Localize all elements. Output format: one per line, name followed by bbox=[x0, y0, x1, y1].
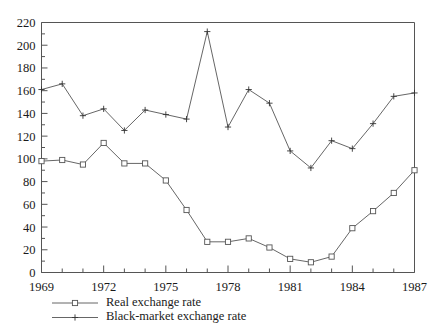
x-tick-label: 1969 bbox=[29, 280, 54, 294]
y-tick-label: 40 bbox=[23, 221, 36, 235]
data-point-black-market-1987 bbox=[411, 90, 417, 96]
y-tick-label: 220 bbox=[17, 16, 36, 30]
data-point-real-1985 bbox=[370, 209, 375, 214]
legend-marker-square bbox=[72, 300, 77, 305]
data-point-black-market-1979 bbox=[246, 86, 252, 92]
exchange-rate-chart: 0204060801001201401601802002201969197219… bbox=[0, 0, 435, 331]
x-tick-label: 1978 bbox=[216, 280, 241, 294]
y-tick-label: 120 bbox=[17, 130, 36, 144]
x-tick-label: 1972 bbox=[91, 280, 116, 294]
chart-canvas: 0204060801001201401601802002201969197219… bbox=[0, 0, 435, 331]
data-point-black-market-1978 bbox=[225, 124, 231, 130]
data-point-black-market-1970 bbox=[59, 81, 65, 87]
y-tick-label: 200 bbox=[17, 39, 36, 53]
x-tick-label: 1984 bbox=[340, 280, 366, 294]
data-point-black-market-1980 bbox=[266, 100, 272, 106]
legend-marker-plus bbox=[72, 314, 78, 320]
plot-frame bbox=[42, 23, 415, 273]
y-tick-label: 0 bbox=[29, 266, 35, 280]
x-tick-label: 1981 bbox=[278, 280, 303, 294]
data-point-real-1976 bbox=[184, 207, 189, 212]
x-tick-label: 1987 bbox=[402, 280, 427, 294]
legend-label-1: Black-market exchange rate bbox=[106, 309, 247, 323]
y-tick-label: 20 bbox=[23, 243, 36, 257]
data-point-real-1980 bbox=[267, 245, 272, 250]
y-tick-label: 160 bbox=[17, 84, 36, 98]
data-point-real-1984 bbox=[350, 226, 355, 231]
x-tick-label: 1975 bbox=[153, 280, 178, 294]
data-point-real-1970 bbox=[60, 157, 65, 162]
y-tick-label: 60 bbox=[23, 198, 36, 212]
y-tick-label: 100 bbox=[17, 152, 36, 166]
data-point-black-market-1971 bbox=[80, 113, 86, 119]
data-point-black-market-1975 bbox=[163, 111, 169, 117]
data-point-real-1981 bbox=[288, 256, 293, 261]
data-point-real-1987 bbox=[412, 168, 417, 173]
data-point-real-1973 bbox=[122, 161, 127, 166]
y-tick-label: 80 bbox=[23, 175, 36, 189]
data-point-real-1972 bbox=[101, 140, 106, 145]
data-point-real-1974 bbox=[143, 161, 148, 166]
data-point-black-market-1969 bbox=[38, 86, 44, 92]
data-point-real-1986 bbox=[391, 190, 396, 195]
data-point-real-1978 bbox=[225, 239, 230, 244]
y-tick-label: 180 bbox=[17, 61, 36, 75]
data-point-black-market-1976 bbox=[183, 116, 189, 122]
data-point-real-1975 bbox=[163, 178, 168, 183]
data-point-real-1969 bbox=[39, 159, 44, 164]
data-point-real-1982 bbox=[308, 260, 313, 265]
series-line-black-market bbox=[42, 32, 415, 168]
legend-label-0: Real exchange rate bbox=[106, 295, 202, 309]
data-point-real-1983 bbox=[329, 254, 334, 259]
data-point-black-market-1977 bbox=[204, 28, 210, 34]
data-point-real-1971 bbox=[80, 162, 85, 167]
data-point-real-1979 bbox=[246, 236, 251, 241]
data-point-real-1977 bbox=[205, 239, 210, 244]
y-tick-label: 140 bbox=[17, 107, 36, 121]
